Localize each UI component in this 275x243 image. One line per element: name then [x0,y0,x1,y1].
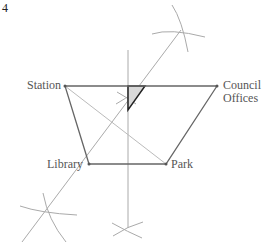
council-label-line1: Council [223,78,262,92]
park-point [165,163,168,166]
construction-arc [43,193,66,242]
shaded-region [128,86,145,110]
station-point [64,85,67,88]
station-label: Station [27,78,61,92]
park-label: Park [171,157,193,171]
angle-bisector-line [22,30,181,242]
council-offices-point [216,85,219,88]
quadrilateral [65,86,217,164]
library-label: Library [47,157,83,171]
diagram-canvas: 4 Station Council Offices Library Park [0,0,275,243]
construction-arc [152,32,205,37]
library-point [88,163,91,166]
construction-arc [172,5,188,52]
construction-arc [112,223,142,238]
question-number: 4 [2,1,8,15]
station-park-diagonal [65,86,166,164]
council-label-line2: Offices [223,91,258,105]
